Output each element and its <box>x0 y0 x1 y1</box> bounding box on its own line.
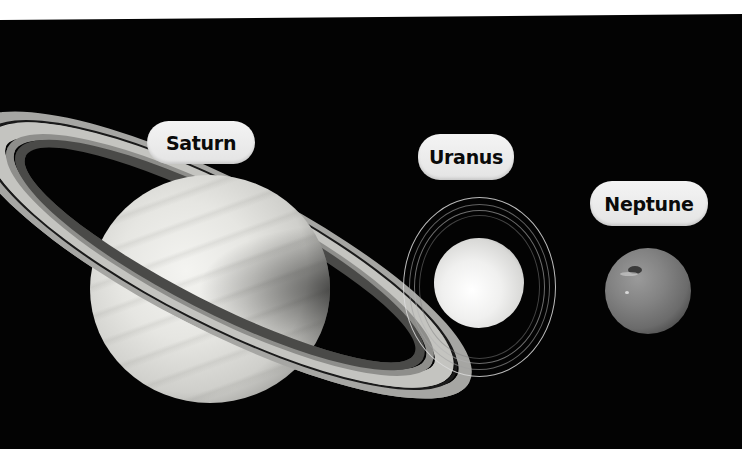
neptune-label-text: Neptune <box>604 193 693 215</box>
saturn-label-text: Saturn <box>166 132 236 154</box>
neptune-cloud-streak <box>620 272 638 276</box>
uranus-planet <box>434 238 524 328</box>
neptune-small-cloud <box>625 291 629 294</box>
neptune-label: Neptune <box>590 181 708 226</box>
uranus-label: Uranus <box>418 134 514 180</box>
saturn-label: Saturn <box>147 121 255 164</box>
uranus-label-text: Uranus <box>429 146 503 168</box>
neptune-planet <box>605 248 691 334</box>
